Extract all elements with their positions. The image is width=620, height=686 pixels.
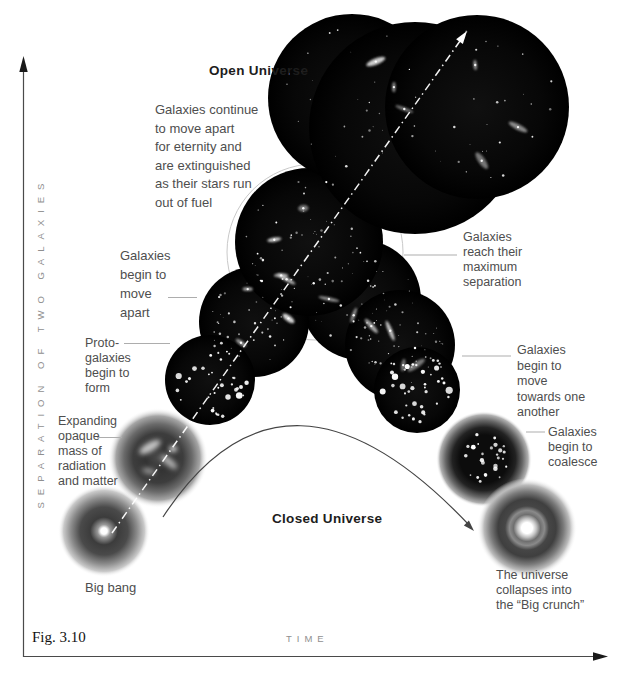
expanding-mass-note: Expanding opaque mass of radiation and m… (58, 414, 118, 489)
closed-universe-title: Closed Universe (272, 511, 382, 526)
max-separation-note: Galaxies reach their maximum separation (463, 230, 522, 290)
coalesce-note: Galaxies begin to coalesce (548, 425, 597, 470)
y-axis (19, 56, 27, 657)
closed-outcome-note: The universe collapses into the “Big cru… (496, 568, 584, 613)
move-towards-note: Galaxies begin to move towards one anoth… (517, 343, 585, 421)
x-axis (23, 652, 608, 660)
y-axis-label: SEPARATION OF TWO GALAXIES (35, 157, 46, 529)
figure-number-label: Fig. 3.10 (32, 629, 86, 646)
move-apart-note: Galaxies begin to move apart (120, 246, 171, 322)
big-crunch-ball (477, 478, 577, 578)
open-outcome-note: Galaxies continue to move apart for eter… (155, 101, 258, 212)
big-bang-label: Big bang (85, 579, 136, 598)
open-universe-title: Open Universe (209, 63, 308, 78)
x-axis-label: TIME (286, 633, 329, 644)
universe-fate-diagram: Open Universe Closed Universe Galaxies c… (0, 0, 620, 686)
proto-galaxies-note: Proto- galaxies begin to form (85, 336, 131, 396)
opaque-mass-ball (108, 408, 208, 508)
